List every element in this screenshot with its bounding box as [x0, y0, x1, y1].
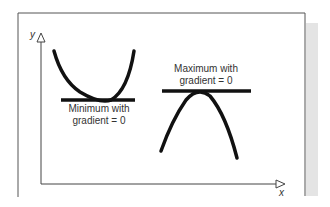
y-axis-arrow-icon — [37, 33, 45, 42]
diagram-frame — [18, 13, 305, 197]
maximum-label-line1: Maximum with — [174, 63, 238, 74]
minimum-label-line2: gradient = 0 — [72, 115, 126, 126]
maximum-label-line2: gradient = 0 — [179, 75, 233, 86]
minimum-curve — [54, 51, 134, 101]
maximum-curve — [161, 92, 237, 158]
frame-shadow — [306, 23, 318, 196]
stationary-points-diagram: y x Minimum with gradient = 0 Maximum wi… — [0, 0, 330, 207]
y-axis-label: y — [29, 29, 36, 40]
x-axis-label: x — [278, 187, 285, 198]
minimum-label-line1: Minimum with — [68, 103, 129, 114]
